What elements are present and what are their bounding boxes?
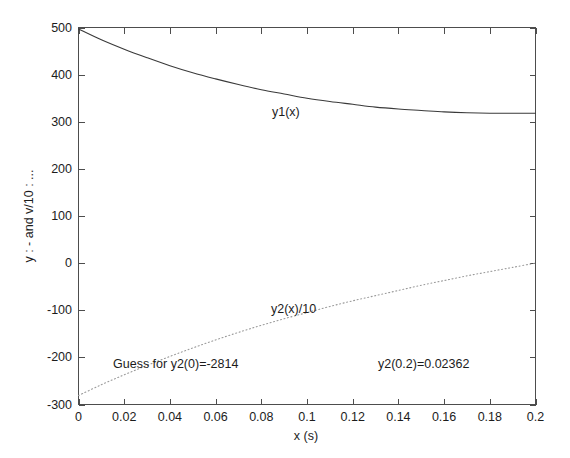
x-tick-label: 0.02	[112, 411, 136, 424]
y-tick-label: 400	[20, 68, 72, 81]
series-line-y2	[79, 263, 536, 395]
x-tick-label: 0.06	[203, 411, 227, 424]
y-tick-label: -200	[20, 351, 72, 364]
x-tick-label: 0	[75, 411, 82, 424]
y-tick-label: 300	[20, 116, 72, 129]
curve-label-y1: y1(x)	[272, 106, 300, 119]
y-axis-title: y : - and v/10 : ...	[23, 169, 36, 262]
x-tick-label: 0.16	[432, 411, 456, 424]
annotation-result: y2(0.2)=0.02362	[378, 358, 469, 371]
annotation-guess: Guess for y2(0)=-2814	[113, 358, 238, 371]
figure-canvas: 5004003002001000-100-200-300 00.020.040.…	[0, 0, 570, 458]
x-tick-label: 0.2	[527, 411, 544, 424]
series-line-y1	[79, 29, 536, 113]
x-tick-label: 0.08	[249, 411, 273, 424]
x-tick-label: 0.1	[298, 411, 315, 424]
curve-label-y2: y2(x)/10	[271, 303, 316, 316]
x-tick-label: 0.14	[386, 411, 410, 424]
x-axis-title: x (s)	[294, 430, 318, 443]
plot-frame	[79, 28, 536, 405]
y-axis-tick-marks	[79, 29, 536, 406]
x-tick-label: 0.04	[158, 411, 182, 424]
plot-area	[0, 0, 570, 458]
x-tick-label: 0.12	[341, 411, 365, 424]
y-tick-label: 500	[20, 21, 72, 34]
x-axis-tick-marks	[80, 28, 537, 405]
y-tick-label: -300	[20, 398, 72, 411]
x-tick-label: 0.18	[478, 411, 502, 424]
y-tick-label: -100	[20, 304, 72, 317]
